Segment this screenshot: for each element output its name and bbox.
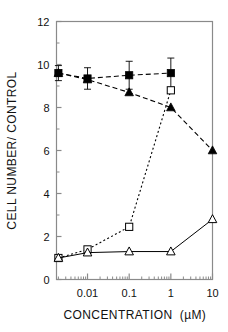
chart-canvas: 0246810120.010.1110CELL NUMBER/ CONTROLC… <box>0 0 228 332</box>
x-tick-label-0.01: 0.01 <box>77 287 98 299</box>
y-tick-label-10: 10 <box>37 59 49 71</box>
data-point-open-triangle <box>125 247 134 255</box>
x-tick-label-1: 1 <box>168 287 174 299</box>
series-open-triangle <box>54 215 217 262</box>
y-tick-label-12: 12 <box>37 16 49 28</box>
x-tick-label-0.1: 0.1 <box>122 287 137 299</box>
series-line-open-triangle <box>58 219 212 258</box>
series-open-square <box>55 87 175 262</box>
plot-frame <box>57 22 213 280</box>
x-axis-label: CONCENTRATION <box>64 308 173 322</box>
y-tick-label-0: 0 <box>43 274 49 286</box>
data-point-filled-square <box>167 70 174 77</box>
x-tick-label-10: 10 <box>206 287 218 299</box>
y-tick-label-6: 6 <box>43 145 49 157</box>
data-point-open-square <box>126 223 133 230</box>
data-point-filled-triangle <box>208 146 217 154</box>
series-line-filled-square <box>58 73 170 78</box>
series-line-filled-triangle <box>58 73 212 150</box>
data-point-filled-square <box>126 72 133 79</box>
series-filled-triangle <box>54 69 217 154</box>
y-axis-label: CELL NUMBER/ CONTROL <box>5 71 19 229</box>
series-line-open-square <box>58 90 170 258</box>
series-filled-square <box>55 58 175 89</box>
y-tick-label-4: 4 <box>43 188 49 200</box>
x-axis-unit-label: (µM) <box>180 308 207 322</box>
data-point-open-triangle <box>208 215 217 223</box>
data-point-open-square <box>167 87 174 94</box>
figure-container: 0246810120.010.1110CELL NUMBER/ CONTROLC… <box>0 0 228 332</box>
y-tick-label-2: 2 <box>43 231 49 243</box>
y-tick-label-8: 8 <box>43 102 49 114</box>
data-point-open-triangle <box>167 247 176 255</box>
